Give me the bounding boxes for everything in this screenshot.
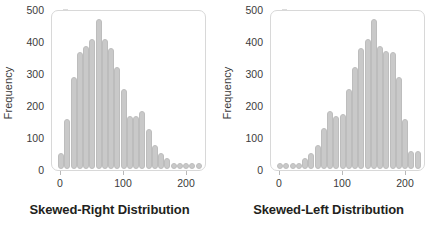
y-axis-tick-label: 200 <box>245 100 263 112</box>
histogram-bar <box>77 52 83 169</box>
y-axis-tick-label: 200 <box>26 100 44 112</box>
x-axis-tick-mark <box>279 171 280 175</box>
chart-caption: Skewed-Right Distribution <box>0 202 219 217</box>
x-axis-tick-mark <box>123 171 124 175</box>
histogram-bar <box>402 119 408 169</box>
histogram-bar <box>121 89 127 169</box>
histogram-bar <box>333 116 339 169</box>
histogram-bars <box>274 12 422 169</box>
histogram-bar <box>133 116 139 169</box>
histogram-bar <box>196 163 202 169</box>
histogram-bar <box>139 111 145 169</box>
x-axis-tick-mark <box>186 171 187 175</box>
x-axis-tick-label: 200 <box>396 177 414 189</box>
histogram-bar <box>302 158 308 169</box>
chart-caption: Skewed-Left Distribution <box>219 202 438 217</box>
y-axis-tick-label: 500 <box>26 4 44 16</box>
histogram-bar <box>277 163 283 169</box>
histogram-bar <box>352 67 358 169</box>
histogram-bar <box>71 77 77 169</box>
histogram-bar <box>346 89 352 169</box>
y-axis-tick-label: 0 <box>257 164 263 176</box>
histogram-bar <box>108 48 114 169</box>
y-axis-tick-group: 500 400 300 200 100 0 <box>237 10 263 170</box>
y-axis-tick-label: 500 <box>245 4 263 16</box>
figure-root: Frequency 500 400 300 200 100 0 0 100 20… <box>0 0 438 236</box>
x-axis-tick-label: 0 <box>276 177 282 189</box>
histogram-bar <box>114 67 120 169</box>
histogram-bar <box>283 163 289 169</box>
x-axis-tick-mark <box>405 171 406 175</box>
histogram-bar <box>89 39 95 169</box>
histogram-bar <box>58 153 64 169</box>
y-axis-tick-label: 400 <box>26 36 44 48</box>
x-axis-tick-mark <box>60 171 61 175</box>
histogram-bar <box>127 116 133 169</box>
histogram-bar <box>358 48 364 169</box>
histogram-bar <box>171 163 177 169</box>
histogram-bar <box>158 153 164 169</box>
histogram-bar <box>327 111 333 169</box>
y-axis-tick-label: 0 <box>38 164 44 176</box>
histogram-bar <box>321 128 327 169</box>
y-axis-tick-group: 500 400 300 200 100 0 <box>18 10 44 170</box>
y-axis-tick-label: 100 <box>26 132 44 144</box>
histogram-bar <box>164 158 170 169</box>
y-axis-tick-label: 300 <box>26 68 44 80</box>
histogram-bar <box>146 129 152 169</box>
histogram-bar <box>415 151 421 169</box>
histogram-bar <box>377 46 383 169</box>
histogram-bar <box>315 145 321 169</box>
x-axis-tick-mark <box>342 171 343 175</box>
x-axis-tick-label: 100 <box>114 177 132 189</box>
histogram-bar <box>102 39 108 169</box>
histogram-bar <box>290 163 296 169</box>
histogram-bar <box>83 46 89 169</box>
x-axis-tick-label: 0 <box>57 177 63 189</box>
histogram-bar <box>189 163 195 169</box>
x-axis-tick-label: 200 <box>177 177 195 189</box>
histogram-bar <box>308 153 314 169</box>
y-axis-label: Frequency <box>221 38 235 148</box>
histogram-bars <box>55 12 203 169</box>
histogram-bar <box>64 119 70 169</box>
y-axis-tick-label: 100 <box>245 132 263 144</box>
histogram-bar <box>183 163 189 169</box>
y-axis-tick-label: 300 <box>245 68 263 80</box>
x-axis-tick-label: 100 <box>333 177 351 189</box>
histogram-bar <box>383 51 389 169</box>
histogram-bar <box>296 163 302 169</box>
histogram-bar <box>396 77 402 169</box>
y-axis-tick-label: 400 <box>245 36 263 48</box>
histogram-bar <box>365 39 371 169</box>
chart-panel-skewed-left: Frequency 500 400 300 200 100 0 0 100 20… <box>219 0 438 236</box>
histogram-bar <box>96 19 102 169</box>
y-axis-label: Frequency <box>2 38 16 148</box>
histogram-bar <box>340 114 346 169</box>
x-axis-tick-group: 0 100 200 <box>270 171 425 193</box>
histogram-bar <box>390 52 396 169</box>
histogram-bar <box>152 145 158 169</box>
histogram-bar <box>177 163 183 169</box>
histogram-bar <box>408 151 414 169</box>
x-axis-tick-group: 0 100 200 <box>51 171 206 193</box>
histogram-bar <box>371 19 377 169</box>
chart-panel-skewed-right: Frequency 500 400 300 200 100 0 0 100 20… <box>0 0 219 236</box>
